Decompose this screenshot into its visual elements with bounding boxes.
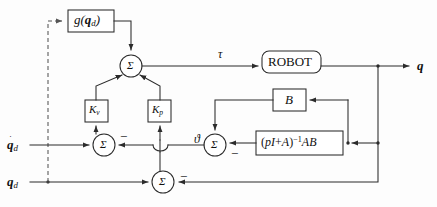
- sum-inner-minus-sign: −: [231, 147, 238, 160]
- diagram-canvas: [0, 0, 437, 207]
- velocity-branch-node: [376, 141, 379, 144]
- theta-signal-label: ϑ: [194, 133, 200, 145]
- block-diagram-figure: g(qd) ROBOT Kv Kp B (pI+A)−1AB Σ Σ Σ Σ −…: [0, 0, 437, 207]
- sum-velocity-minus-sign: −: [120, 130, 127, 143]
- sum-inner-loop-glyph: Σ: [211, 139, 218, 150]
- robot-label: ROBOT: [268, 55, 312, 68]
- transfer-function-label: (pI+A)−1AB: [261, 136, 316, 148]
- sum-torque-glyph: Σ: [127, 60, 134, 71]
- input-position-label: qd: [7, 175, 18, 190]
- sum-position-error-glyph: Σ: [159, 176, 166, 187]
- b-block-output-wire: [215, 100, 273, 130]
- input-velocity-label: q · d: [7, 138, 18, 153]
- b-feed-node: [346, 141, 349, 144]
- torque-signal-label: τ: [218, 48, 222, 60]
- kp-to-sum-wire: [140, 75, 160, 100]
- velocity-dot-accent: ·: [9, 132, 12, 141]
- gain-position-label: Kp: [152, 104, 163, 116]
- actuator-matrix-label: B: [285, 93, 293, 106]
- dashed-feedforward-wire: [48, 21, 60, 182]
- gravity-compensation-label: g(qd): [74, 13, 100, 28]
- kv-to-sum-wire: [96, 75, 122, 100]
- sum-velocity-error-glyph: Σ: [100, 139, 107, 150]
- sum-position-minus-sign: −: [180, 170, 187, 183]
- gravity-to-sum-wire: [114, 21, 131, 50]
- gain-velocity-label: Kv: [89, 104, 100, 116]
- output-position-label: q: [417, 59, 424, 72]
